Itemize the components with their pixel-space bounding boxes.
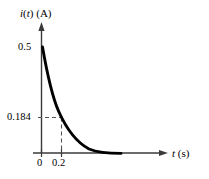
y-axis-unit: (A) xyxy=(36,7,51,19)
y-tick-label-0-5: 0.5 xyxy=(18,41,31,52)
decay-curve xyxy=(43,47,122,153)
y-axis-paren-close: ) xyxy=(30,7,34,19)
x-tick-label-0: 0 xyxy=(37,157,42,168)
y-tick-label-0-184: 0.184 xyxy=(7,111,31,122)
x-tick-label-0-2: 0.2 xyxy=(52,157,65,168)
x-axis-unit: (s) xyxy=(178,147,190,159)
x-axis-symbol: t xyxy=(172,147,175,159)
x-axis-arrowhead xyxy=(159,150,168,156)
y-axis-title: i(t) (A) xyxy=(20,7,52,19)
figure-container: i(t) (A) t (s) 0.5 0.184 0 0.2 xyxy=(0,0,209,179)
y-axis-arrowhead xyxy=(38,22,44,31)
x-axis-title: t (s) xyxy=(172,147,189,159)
